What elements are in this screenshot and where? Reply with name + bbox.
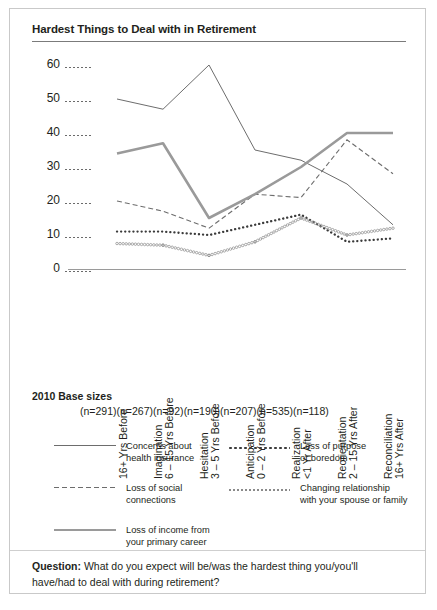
legend-item: Loss of socialconnections [54,483,182,506]
title-divider [32,41,406,42]
legend-item: Concerns abouthealth insurance [54,441,194,464]
legend-label-line2: with your spouse or family [300,495,407,507]
x-axis-line [68,269,406,270]
legend-item: Changing relationshipwith your spouse or… [228,483,407,506]
base-size-value: (n=118) [293,405,329,417]
legend-label-line2: connections [126,495,182,507]
footer-divider [10,550,426,551]
series-dotted [117,215,393,242]
series-thick [117,133,393,218]
line-chart: 0102030405060 [10,47,426,279]
base-sizes-row: (n=291)(n=267)(n=92)(n=190)(n=207)(n=535… [80,405,329,417]
legend-label-line1: Changing relationship [300,483,407,495]
base-size-value: (n=207) [220,405,256,417]
question-body: What do you expect will be/was the harde… [32,560,358,588]
base-size-value: (n=92) [153,405,184,417]
base-size-value: (n=267) [116,405,152,417]
legend-swatch-dotted [228,445,290,451]
legend-swatch-solid [54,445,116,452]
legend-swatch-dashed [54,487,116,493]
legend-label-line1: Loss of purpose [300,441,366,453]
base-sizes-label: 2010 Base sizes [32,390,112,402]
page-title: Hardest Things to Deal with in Retiremen… [32,23,256,35]
legend-label-line1: Loss of income from [126,525,210,537]
plot-area [10,47,426,279]
legend-swatch-thick [54,529,116,537]
chart-legend: Concerns abouthealth insuranceLoss of so… [10,441,426,541]
series-dashed [117,140,393,228]
legend-label-line2: your primary career [126,537,210,549]
legend-item: Loss of purposeor boredom [228,441,366,464]
legend-swatch-circles [228,487,290,493]
legend-item: Loss of income fromyour primary career [54,525,210,548]
base-size-value: (n=190) [184,405,220,417]
legend-label-line2: health insurance [126,453,194,465]
chart-card: Hardest Things to Deal with in Retiremen… [9,8,426,594]
base-size-value: (n=291) [80,405,116,417]
legend-label-line1: Loss of social [126,483,182,495]
series-circles [116,217,395,257]
question-text: Question: What do you expect will be/was… [32,558,404,590]
legend-label-line2: or boredom [300,453,366,465]
x-axis-labels: 16+ Yrs BeforeImagination6 – 15 Yrs Befo… [10,281,426,381]
question-label: Question: [32,560,81,572]
base-size-value: (n=535) [257,405,293,417]
legend-label-line1: Concerns about [126,441,194,453]
